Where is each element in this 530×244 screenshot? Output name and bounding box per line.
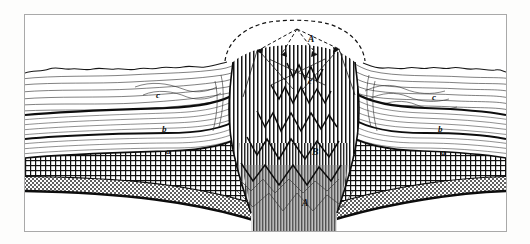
label-core-A-lower: A <box>302 199 308 209</box>
label-right-b: b <box>438 125 443 134</box>
cross-section-drawing <box>25 15 506 231</box>
label-right-c: c <box>432 93 436 102</box>
label-core-B: B <box>312 148 318 158</box>
label-apex-A: A <box>308 35 314 45</box>
label-core-c: c <box>308 77 312 86</box>
label-right-a: a <box>441 148 446 157</box>
engraving-plate: A c B A c b a c b a <box>24 14 507 232</box>
figure-container: A c B A c b a c b a <box>0 0 530 244</box>
label-left-a: a <box>166 147 171 156</box>
label-left-c: c <box>156 91 160 100</box>
label-left-b: b <box>162 125 167 134</box>
